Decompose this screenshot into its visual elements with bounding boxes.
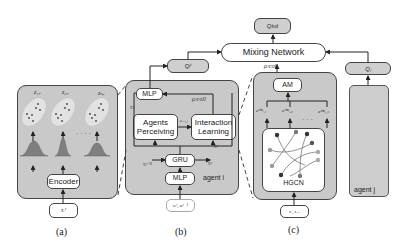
agents-perceiving-box: Agents Perceiving <box>133 114 178 140</box>
mixing-network-label: Mixing Network <box>243 47 305 57</box>
encoder-label: Encoder <box>49 177 79 186</box>
hgcn-label: HGCN <box>283 179 304 187</box>
encoder-box: Encoder <box>47 174 80 189</box>
agent-j-box <box>349 85 389 197</box>
caption-c: (c) <box>288 224 299 235</box>
gru-box: GRU <box>165 154 195 167</box>
tau-label-gru: τᵢᵗ <box>208 160 212 166</box>
q-j-box: Qⱼ <box>345 62 391 75</box>
panel-b-input-box: oᵢᵗ, aᵢᵗ⁻¹ <box>166 199 195 212</box>
mlp-bottom-box: MLP <box>165 172 195 185</box>
hgcn-box: HGCN <box>262 128 325 192</box>
mixing-network-box: Mixing Network <box>221 43 326 62</box>
tau-prev-label: τᵢᵗ⁻¹ <box>143 160 152 167</box>
emb-label-2: eᵍʰⁿᵢ,₂ <box>282 108 292 113</box>
mlp-bottom-label: MLP <box>173 174 187 182</box>
ellipsis-c: · · · <box>302 116 313 123</box>
interaction-learning-label: Interaction Learning <box>192 118 235 136</box>
caption-a: (a) <box>56 226 67 237</box>
ellipsis-a: · · · · <box>76 130 91 137</box>
mlp-top-label: MLP <box>142 90 156 98</box>
agent-i-label: agent i <box>203 174 224 181</box>
q-j-label: Qⱼ <box>365 65 371 72</box>
agents-perceiving-label: Agents Perceiving <box>134 118 177 136</box>
z-label-b: z₋ᵢ,ᵢ <box>180 117 188 123</box>
tau-label-mlp: τᵢᵗ <box>130 104 134 110</box>
panel-a-input-box: τᵢᵗ <box>49 203 78 218</box>
rho-label-c: ρᵢᵗcoll <box>264 63 278 69</box>
gru-label: GRU <box>172 156 188 164</box>
q-i-label: Qᵢᵗ <box>185 63 192 69</box>
panel-c-input-box: τᵢ, z₋ᵢ <box>280 205 309 218</box>
q-tot-box: Qtot <box>254 18 291 34</box>
panel-a-input-label: τᵢᵗ <box>61 206 66 214</box>
am-box: AM <box>273 78 302 92</box>
q-i-box: Qᵢᵗ <box>167 59 209 73</box>
caption-b: (b) <box>175 226 187 237</box>
mlp-top-box: MLP <box>136 88 163 100</box>
panel-c-input-label: τᵢ, z₋ᵢ <box>289 209 300 215</box>
q-tot-label: Qtot <box>267 23 278 29</box>
rho-label-b: ρᵢᵗcoll <box>192 96 206 102</box>
emb-label-n: eᵍʰⁿᵢ,ₙ <box>318 108 329 114</box>
panel-b-input-label: oᵢᵗ, aᵢᵗ⁻¹ <box>173 203 188 209</box>
agent-j-label: agent j <box>354 186 375 193</box>
cluster-label-n: zₙ,ᵢ <box>98 89 105 96</box>
cluster-label-1: z₁,ᵢ <box>34 89 41 95</box>
emb-label-1: eᵍʰⁿᵢ,₁ <box>256 108 266 113</box>
am-label: AM <box>282 81 293 89</box>
cluster-label-2: z₂,ᵢ <box>62 89 69 95</box>
interaction-learning-box: Interaction Learning <box>191 114 236 140</box>
tau-label-il: τᵢᵗ <box>214 143 218 149</box>
